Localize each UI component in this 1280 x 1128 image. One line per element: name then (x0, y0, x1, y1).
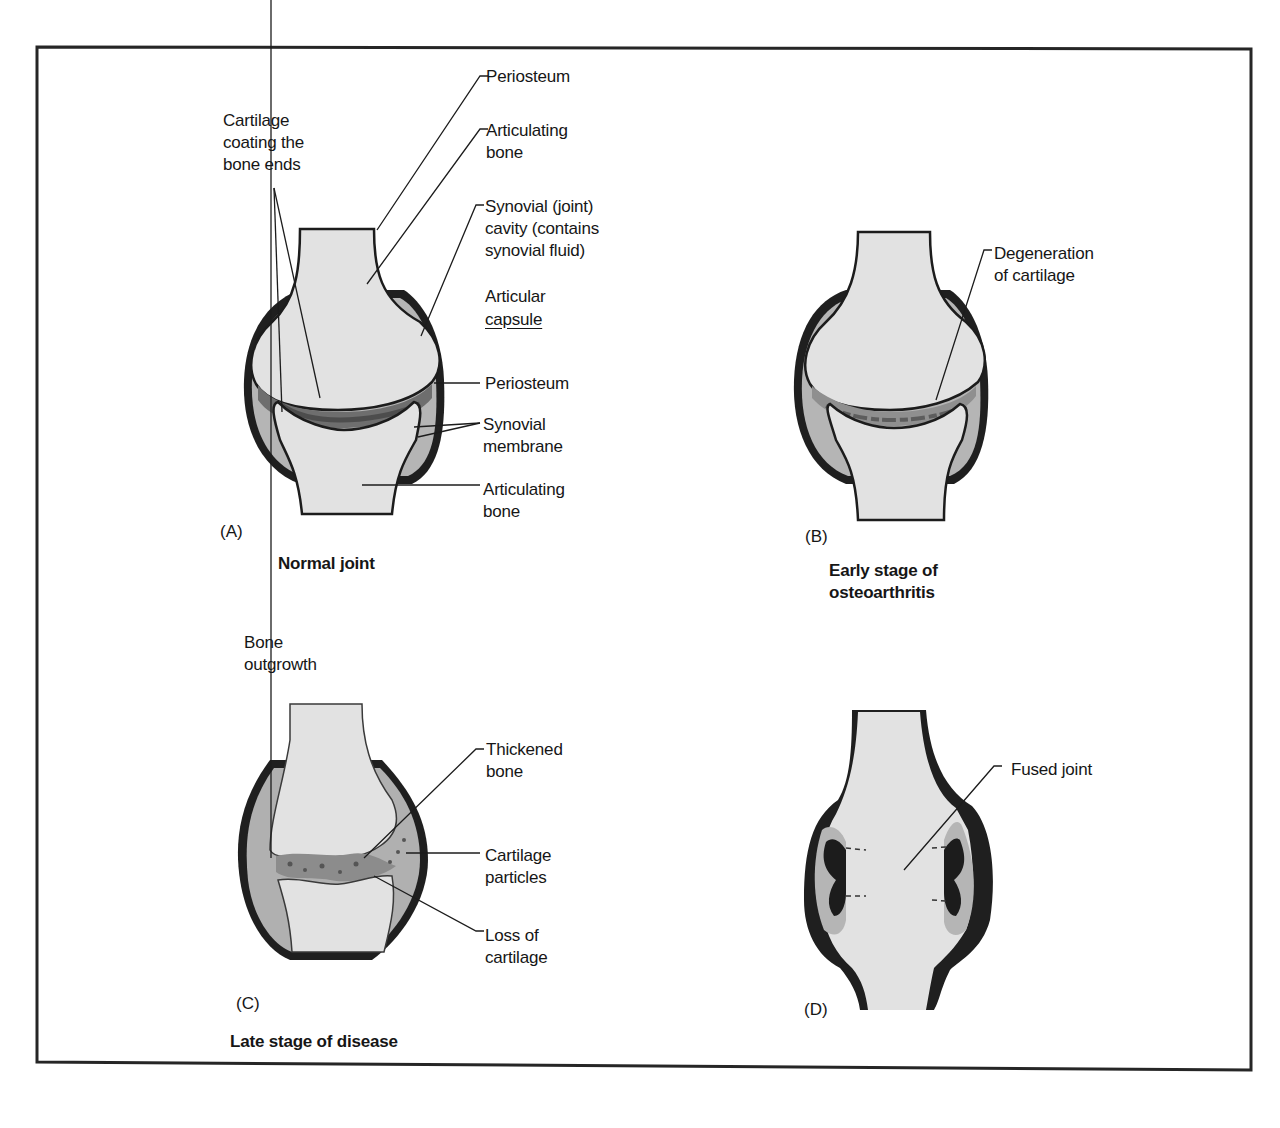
label-loss-of-cartilage: Loss of cartilage (485, 925, 547, 969)
label-cartilage-particles: Cartilage particles (485, 845, 551, 889)
label-synovial-cavity: Synovial (joint) cavity (contains synovi… (485, 196, 599, 262)
panel-letter-c: (C) (236, 994, 260, 1014)
joint-late-stage-illustration (238, 704, 428, 960)
diagram-canvas (0, 0, 1280, 1128)
panel-letter-a: (A) (220, 522, 243, 542)
joint-normal-illustration (244, 229, 444, 514)
panel-letter-b: (B) (805, 527, 828, 547)
panel-title-late-stage: Late stage of disease (230, 1031, 398, 1053)
panel-letter-d: (D) (804, 1000, 828, 1020)
label-periosteum-mid: Periosteum (485, 373, 569, 395)
label-cartilage-coating: Cartilage coating the bone ends (223, 110, 304, 176)
panel-title-normal-joint: Normal joint (278, 553, 375, 575)
panel-title-early-stage: Early stage of osteoarthritis (829, 560, 938, 604)
label-articular-capsule-line1: Articular (485, 286, 546, 308)
joint-fused-illustration (804, 710, 993, 1010)
label-bone-outgrowth: Bone outgrowth (244, 632, 317, 676)
label-periosteum-top: Periosteum (486, 66, 570, 88)
label-degeneration-of-cartilage: Degeneration of cartilage (994, 243, 1094, 287)
label-thickened-bone: Thickened bone (486, 739, 563, 783)
label-articulating-bone-top: Articulating bone (486, 120, 568, 164)
label-fused-joint: Fused joint (1011, 759, 1092, 781)
label-articular-capsule-line2: capsule (485, 309, 542, 331)
label-synovial-membrane: Synovial membrane (483, 414, 563, 458)
figure-border (37, 47, 1251, 1070)
label-articulating-bone-bottom: Articulating bone (483, 479, 565, 523)
joint-early-oa-illustration (794, 232, 988, 520)
